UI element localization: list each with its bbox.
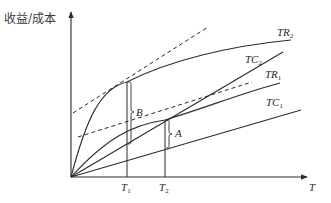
tc2-label-base: TC: [245, 53, 258, 65]
brace-a: [166, 120, 172, 148]
t2-sub: 2: [165, 187, 169, 195]
tr2-label: TR2: [277, 27, 293, 40]
tr2-label-sub: 2: [290, 32, 294, 40]
t1-tick-label: T1: [121, 182, 131, 195]
tc1-line: [71, 110, 301, 177]
t1-sub: 1: [127, 187, 131, 195]
revenue-cost-diagram: 收益/成本 TR2 TC2 TR1 TC1 B A T1 T2 T: [0, 0, 331, 203]
tc2-line: [71, 52, 283, 177]
tr2-label-base: TR: [277, 26, 290, 38]
tc2-label: TC2: [245, 54, 262, 67]
tr1-label: TR1: [265, 69, 281, 82]
tangent-tr2-dashed: [73, 27, 208, 113]
tc1-label-sub: 1: [279, 102, 283, 110]
tc1-label-base: TC: [266, 96, 279, 108]
t2-tick-label: T2: [159, 182, 169, 195]
y-axis-label: 收益/成本: [4, 13, 56, 25]
tc2-label-sub: 2: [258, 59, 262, 67]
tc1-label: TC1: [266, 97, 283, 110]
brace-a-label: A: [175, 128, 182, 139]
x-axis-label: T: [309, 182, 315, 193]
tr1-label-base: TR: [265, 68, 278, 80]
brace-b: [128, 82, 134, 144]
tr1-label-sub: 1: [278, 74, 282, 82]
brace-b-label: B: [136, 107, 143, 118]
